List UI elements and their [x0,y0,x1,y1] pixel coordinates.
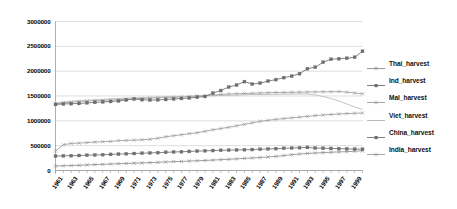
legend-item-india-harvest[interactable]: India_harvest [366,141,456,158]
legend-label: Thai_harvest [389,60,429,67]
legend-label: India_harvest [389,146,431,153]
legend-marker-icon [366,111,386,120]
legend-marker-icon [366,59,386,68]
chart-legend: Thai_harvestInd_harvestMal_harvestViet_h… [366,55,456,158]
legend-label: Viet_harvest [389,112,428,119]
legend-item-thai-harvest[interactable]: Thai_harvest [366,55,456,72]
y-tick-1000000: 1000000 [0,117,51,124]
legend-item-china-harvest[interactable]: China_harvest [366,124,456,141]
legend-item-ind-harvest[interactable]: Ind_harvest [366,72,456,89]
legend-marker-icon [366,93,386,102]
series-india-harvest [54,111,364,152]
y-tick-3000000: 3000000 [0,18,51,25]
series-ind-harvest [54,146,364,158]
y-tick-2500000: 2500000 [0,42,51,49]
y-tick-2000000: 2000000 [0,67,51,74]
legend-label: China_harvest [389,129,434,136]
legend-label: Mal_harvest [389,94,427,101]
series-mal-harvest [54,90,364,106]
series-thai-harvest [54,149,364,168]
legend-label: Ind_harvest [389,77,425,84]
legend-marker-icon [366,145,386,154]
series-china-harvest [54,50,364,106]
legend-item-viet-harvest[interactable]: Viet_harvest [366,107,456,124]
y-tick-1500000: 1500000 [0,92,51,99]
y-tick-500000: 500000 [0,142,51,149]
y-tick-0: 0 [0,167,51,174]
rice-harvest-line-chart: 0500000100000015000002000000250000030000… [0,0,457,209]
data-series-group [54,50,364,168]
legend-marker-icon [366,128,386,137]
legend-marker-icon [366,76,386,85]
legend-item-mal-harvest[interactable]: Mal_harvest [366,89,456,106]
